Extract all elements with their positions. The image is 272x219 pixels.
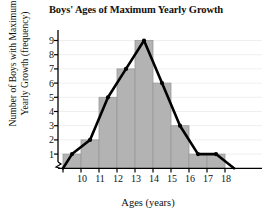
bar-16 <box>171 126 189 169</box>
axis-break-icon <box>56 162 61 168</box>
bar-17 <box>189 154 207 168</box>
bar-12 <box>99 97 117 168</box>
bar-14 <box>135 41 153 169</box>
bar-18 <box>207 154 225 168</box>
histogram-bars <box>63 41 225 169</box>
bar-13 <box>117 69 135 168</box>
plot-area <box>0 0 272 219</box>
chart-figure: Boys' Ages of Maximum Yearly Growth Numb… <box>0 0 272 219</box>
